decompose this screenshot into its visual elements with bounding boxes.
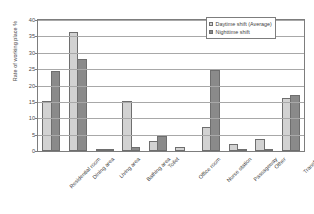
- legend-label-daytime: Daytime shift (Average): [216, 20, 272, 28]
- bar-chart: Rate of working place % 0510152025303540…: [0, 0, 314, 214]
- y-axis-tick-labels: 0510152025303540: [16, 19, 35, 152]
- x-axis-tick-label: Office room: [198, 156, 222, 180]
- x-axis-tick-label: Residential room: [68, 156, 101, 189]
- bar: [175, 147, 185, 151]
- x-axis-tick-label: Living area: [117, 156, 140, 179]
- bar: [264, 149, 274, 151]
- y-axis-tick: [35, 36, 38, 37]
- legend-label-nighttime: Nighttime shift: [216, 28, 250, 36]
- chart-legend: Daytime shift (Average) Nighttime shift: [206, 17, 276, 39]
- bar: [210, 70, 220, 151]
- x-axis-tick-label: Nurse station: [225, 156, 252, 183]
- y-axis-tick: [35, 86, 38, 87]
- bar: [77, 59, 87, 151]
- gridline: [38, 53, 304, 54]
- x-axis-tick-label: Other: [273, 156, 287, 170]
- y-axis-tick: [35, 135, 38, 136]
- gridline: [38, 118, 304, 119]
- y-axis-tick: [35, 102, 38, 103]
- bar: [122, 101, 132, 151]
- legend-item-nighttime: Nighttime shift: [209, 28, 272, 36]
- x-axis-tick-label: Toilet: [166, 156, 179, 169]
- legend-swatch-nighttime-icon: [209, 30, 213, 34]
- bar: [237, 149, 247, 151]
- gridline: [38, 86, 304, 87]
- legend-swatch-daytime-icon: [209, 22, 213, 26]
- bar: [131, 147, 141, 151]
- x-axis-tick-label: Transfer: [302, 156, 314, 175]
- y-axis-tick: [35, 53, 38, 54]
- bar: [51, 71, 61, 151]
- y-axis-tick: [35, 69, 38, 70]
- bar: [104, 149, 114, 151]
- bar: [157, 136, 167, 151]
- gridline: [38, 135, 304, 136]
- y-axis-tick: [35, 20, 38, 21]
- x-axis-tick-label: Dining area: [91, 156, 115, 180]
- bar: [290, 95, 300, 151]
- gridline: [38, 102, 304, 103]
- legend-item-daytime: Daytime shift (Average): [209, 20, 272, 28]
- x-axis-tick-label: Bathing area: [145, 156, 171, 182]
- y-axis-tick: [35, 118, 38, 119]
- y-axis-tick: [35, 151, 38, 152]
- gridline: [38, 69, 304, 70]
- x-axis-tick-label: Passageway: [252, 156, 278, 182]
